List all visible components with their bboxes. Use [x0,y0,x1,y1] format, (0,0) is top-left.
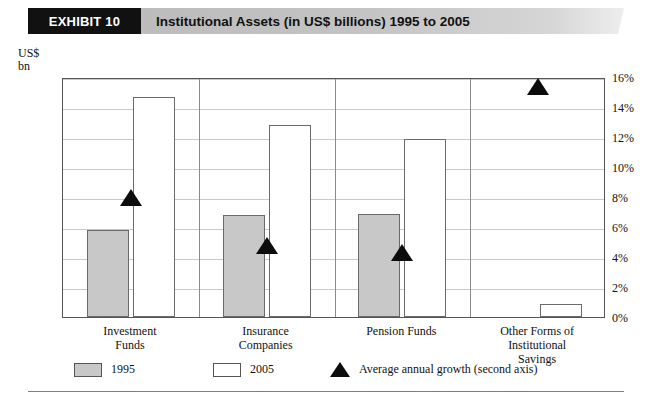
y-axis-tick-label-right: 14% [612,101,646,116]
category-label-line: Companies [198,338,334,352]
category-separator [335,79,336,317]
y-axis-unit-caption: US$ bn [18,47,39,73]
legend-label-1995: 1995 [111,362,135,377]
category-label: Other Forms ofInstitutionalSavings [469,324,605,366]
growth-marker-triangle [120,189,142,206]
legend-label-2005: 2005 [250,362,274,377]
bar-1995 [87,230,129,317]
category-separator [470,79,471,317]
bar-1995 [358,214,400,318]
growth-marker-triangle [391,244,413,261]
legend-label-average-annual-growth: Average annual growth (second axis) [359,362,537,377]
category-label-line: Institutional [469,338,605,352]
y-axis-tick-label-right: 10% [612,161,646,176]
chart-plot-area [62,78,605,318]
y-axis-tick-label-right: 0% [612,311,646,326]
y-axis-tick-label-right: 12% [612,131,646,146]
bar-2005 [404,139,446,318]
exhibit-header: EXHIBIT 10 Institutional Assets (in US$ … [28,8,624,34]
bar-2005 [540,304,582,317]
y-axis-tick-label-right: 16% [612,71,646,86]
category-label-line: Other Forms of [469,324,605,338]
exhibit-tag: EXHIBIT 10 [28,8,141,34]
y-axis-tick-label-right: 8% [612,191,646,206]
legend-item-2005: 2005 [213,362,274,377]
category-label: InsuranceCompanies [198,324,334,352]
exhibit-title: Institutional Assets (in US$ billions) 1… [156,8,470,34]
category-label: InvestmentFunds [62,324,198,352]
category-separator [199,79,200,317]
category-label-line: Pension Funds [334,324,470,338]
legend-item-average-annual-growth: Average annual growth (second axis) [330,362,537,377]
footer-divider [28,391,624,392]
y-axis-tick-label-right: 2% [612,281,646,296]
gray-square-swatch-icon [74,363,102,377]
bar-2005 [269,125,311,317]
y-axis-tick-label-right: 4% [612,251,646,266]
category-label: Pension Funds [334,324,470,338]
legend-item-1995: 1995 [74,362,135,377]
y-axis-tick-label-right: 6% [612,221,646,236]
black-triangle-marker-icon [330,362,350,377]
growth-marker-triangle [256,237,278,254]
bar-2005 [133,97,175,318]
y-axis-unit-line-2: bn [18,60,39,73]
white-square-swatch-icon [213,363,241,377]
growth-marker-triangle [527,78,549,95]
category-label-line: Funds [62,338,198,352]
category-label-line: Insurance [198,324,334,338]
gridline [63,79,604,80]
bar-1995 [223,215,265,317]
category-label-line: Investment [62,324,198,338]
